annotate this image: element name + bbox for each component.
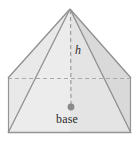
base-center-dot: [68, 104, 75, 111]
base-label: base: [56, 113, 78, 125]
pyramid-figure: h base: [0, 0, 139, 143]
height-label: h: [75, 44, 81, 56]
